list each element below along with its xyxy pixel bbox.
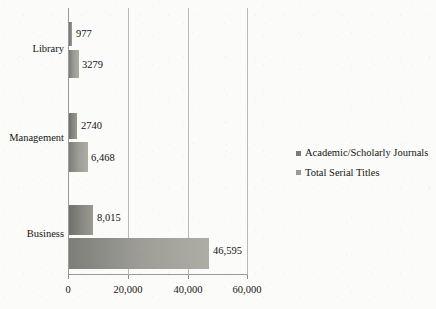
legend-item-total-serial-titles: Total Serial Titles [296,168,428,179]
xtick-label-20000: 20,000 [114,284,143,295]
tick-60000 [247,275,248,279]
gridline-20000 [128,8,129,275]
tick-20000 [128,275,129,279]
bar-library-total [69,50,79,78]
gridline-60000 [247,8,248,275]
bar-business-total [69,238,209,269]
legend-item-academic-scholarly-journals: Academic/Scholarly Journals [296,148,428,159]
legend-swatch-icon-academic [296,151,301,156]
x-axis-line [68,274,248,275]
bar-management-total [69,142,88,172]
plot-area [68,8,248,275]
xtick-label-60000: 60,000 [233,284,262,295]
datalabel-business-total: 46,595 [213,246,242,257]
chart-legend: Academic/Scholarly Journals Total Serial… [296,148,428,187]
bar-management-academic [69,113,77,139]
category-label-business: Business [0,228,64,239]
legend-label-academic: Academic/Scholarly Journals [305,148,428,159]
datalabel-library-total: 3279 [82,60,103,71]
bar-library-academic [69,22,72,46]
legend-label-total: Total Serial Titles [305,168,380,179]
xtick-label-40000: 40,000 [174,284,203,295]
bar-business-academic [69,205,93,235]
datalabel-management-academic: 2740 [81,121,102,132]
xtick-label-0: 0 [65,284,70,295]
datalabel-management-total: 6,468 [91,153,115,164]
tick-0 [68,275,69,279]
gridline-40000 [188,8,189,275]
legend-swatch-icon-total [296,170,301,175]
category-label-management: Management [0,132,64,143]
datalabel-business-academic: 8,015 [97,213,121,224]
tick-40000 [188,275,189,279]
chart-page: Library Management Business 977 3279 274… [0,0,436,309]
category-label-library: Library [0,43,64,54]
datalabel-library-academic: 977 [76,29,92,40]
